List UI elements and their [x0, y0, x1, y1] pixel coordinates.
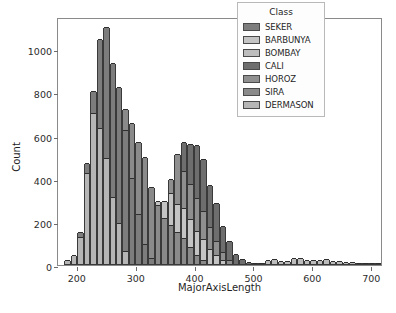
y-axis-tick-label: 0: [46, 262, 52, 273]
histogram-bar-segment: [162, 218, 166, 264]
legend-item-label: SIRA: [265, 87, 284, 97]
histogram-bar-segment: [279, 261, 283, 264]
legend-item-horoz: HOROZ: [243, 72, 319, 85]
histogram-bar-segment: [240, 259, 244, 264]
histogram-bar-segment: [214, 203, 218, 242]
histogram-bar: [181, 143, 187, 265]
legend: Class SEKERBARBUNYABOMBAYCALIHOROZSIRADE…: [237, 2, 325, 117]
histogram-bar-segment: [130, 178, 134, 264]
histogram-bar: [194, 146, 200, 265]
histogram-bar-segment: [376, 263, 380, 264]
histogram-bar-segment: [227, 241, 231, 260]
histogram-bar-segment: [305, 260, 309, 264]
x-axis-tick: [195, 267, 196, 271]
y-axis-tick: [54, 94, 58, 95]
histogram-bar: [168, 180, 174, 265]
histogram-bar-segment: [78, 237, 82, 264]
histogram-bar-segment: [130, 123, 134, 177]
histogram-bar-segment: [234, 254, 238, 264]
x-axis-tick: [312, 267, 313, 271]
histogram-bar: [129, 124, 135, 265]
histogram-bar: [155, 202, 161, 265]
y-axis-tick: [54, 267, 58, 268]
legend-swatch-icon: [243, 62, 260, 70]
histogram-bar-segment: [195, 145, 199, 198]
legend-item-seker: SEKER: [243, 20, 319, 33]
histogram-bar-segment: [117, 87, 121, 223]
histogram-bar-segment: [85, 173, 89, 264]
histogram-bar-segment: [208, 185, 212, 228]
y-axis-label: Count: [11, 142, 22, 172]
legend-item-bombay: BOMBAY: [243, 46, 319, 59]
legend-swatch-icon: [243, 88, 260, 96]
histogram-bar: [116, 88, 122, 265]
y-axis-tick: [54, 224, 58, 225]
y-axis-tick: [54, 51, 58, 52]
histogram-bar-segment: [208, 249, 212, 264]
legend-swatch-icon: [243, 36, 260, 44]
legend-item-sira: SIRA: [243, 85, 319, 98]
legend-item-dermason: DERMASON: [243, 98, 319, 111]
histogram-bar-segment: [143, 157, 147, 245]
histogram-bar: [291, 259, 297, 265]
y-axis-tick: [54, 181, 58, 182]
histogram-bar-segment: [318, 260, 322, 264]
legend-item-cali: CALI: [243, 59, 319, 72]
histogram-bar-segment: [221, 252, 225, 260]
histogram-bar: [77, 233, 83, 265]
histogram-bar-segment: [221, 226, 225, 253]
histogram-bar-segment: [136, 142, 140, 214]
histogram-bar-segment: [188, 247, 192, 264]
histogram-bar-segment: [337, 261, 341, 264]
histogram-bar: [304, 261, 310, 265]
histogram-bar-segment: [169, 193, 173, 225]
histogram-bar-segment: [175, 154, 179, 204]
histogram-bar-segment: [182, 238, 186, 264]
histogram-bar: [252, 263, 258, 265]
y-axis-group: [54, 19, 72, 265]
histogram-bar-segment: [182, 142, 186, 171]
legend-item-label: BOMBAY: [265, 48, 300, 58]
histogram-bar-segment: [285, 261, 289, 264]
histogram-bar-segment: [221, 260, 225, 264]
histogram-bar-segment: [188, 144, 192, 183]
histogram-bar-segment: [98, 128, 102, 264]
histogram-figure: 20030040050060070002004006008001000 Majo…: [0, 0, 396, 313]
y-axis-tick-label: 1000: [28, 46, 52, 57]
legend-item-label: HOROZ: [265, 74, 296, 84]
histogram-bar: [103, 28, 109, 265]
histogram-bar-segment: [156, 201, 160, 205]
histogram-bar-segment: [259, 263, 263, 264]
histogram-bar-segment: [111, 197, 115, 264]
histogram-bar-segment: [331, 261, 335, 264]
histogram-bar-segment: [227, 260, 231, 264]
histogram-bar-segment: [175, 232, 179, 264]
histogram-bar-segment: [266, 260, 270, 264]
histogram-bar: [142, 158, 148, 265]
histogram-bar: [317, 261, 323, 265]
histogram-bar-segment: [188, 184, 192, 220]
histogram-bar-segment: [195, 255, 199, 264]
histogram-bar-segment: [253, 263, 257, 264]
histogram-bar-segment: [350, 262, 354, 264]
histogram-bar: [90, 92, 96, 265]
histogram-bar-segment: [208, 227, 212, 249]
x-axis-tick: [253, 267, 254, 271]
histogram-bar-segment: [214, 255, 218, 264]
legend-title: Class: [243, 7, 319, 17]
histogram-bar: [226, 242, 232, 265]
histogram-bar-segment: [91, 113, 95, 264]
histogram-bar-segment: [201, 239, 205, 261]
y-axis-tick-label: 400: [34, 175, 52, 186]
histogram-bar-segment: [201, 260, 205, 264]
histogram-bar-segment: [104, 158, 108, 264]
histogram-bar-segment: [78, 232, 82, 237]
histogram-bar-segment: [370, 263, 374, 264]
histogram-bar: [343, 263, 349, 265]
histogram-bar: [330, 262, 336, 265]
histogram-bar-segment: [247, 262, 251, 264]
histogram-bar-segment: [111, 63, 115, 197]
legend-item-label: DERMASON: [265, 100, 314, 110]
histogram-bar-segment: [136, 214, 140, 264]
legend-swatch-icon: [243, 75, 260, 83]
